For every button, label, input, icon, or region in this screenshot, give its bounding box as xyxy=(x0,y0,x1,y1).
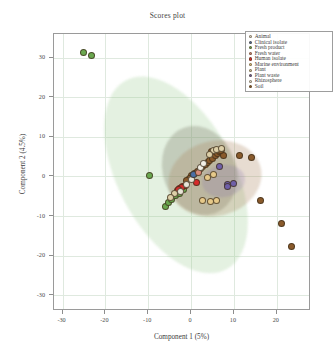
legend-marker-icon xyxy=(249,41,252,44)
data-point xyxy=(224,183,231,190)
legend[interactable]: AnimalClinical isolateFresh productFresh… xyxy=(245,31,333,92)
legend-marker-icon xyxy=(249,63,252,66)
legend-item-label: Soil xyxy=(255,84,264,89)
data-point xyxy=(288,243,295,250)
legend-marker-icon xyxy=(249,35,252,38)
x-axis-label: Component 1 (5%) xyxy=(53,333,310,341)
y-axis-tick xyxy=(49,255,53,256)
y-axis-tick xyxy=(49,96,53,97)
y-axis-tick-label: 30 xyxy=(19,53,45,60)
data-point xyxy=(236,152,243,159)
y-axis-tick-label: -20 xyxy=(19,251,45,258)
legend-marker-icon xyxy=(249,74,252,77)
y-axis-tick xyxy=(49,215,53,216)
x-axis-tick xyxy=(190,310,191,314)
y-axis-tick xyxy=(49,294,53,295)
data-point xyxy=(248,154,255,161)
x-axis-tick-label: 20 xyxy=(261,316,291,323)
data-point xyxy=(88,52,95,59)
page-title: Scores plot xyxy=(0,11,335,20)
x-axis-tick xyxy=(104,310,105,314)
data-point xyxy=(206,151,213,158)
legend-marker-icon xyxy=(249,46,252,49)
x-axis-tick xyxy=(147,310,148,314)
x-axis-tick-label: -20 xyxy=(89,316,119,323)
x-axis-tick-label: -10 xyxy=(132,316,162,323)
y-axis-tick-label: -30 xyxy=(19,291,45,298)
x-axis-tick-label: 0 xyxy=(175,316,205,323)
gridline-vertical xyxy=(63,34,64,309)
legend-marker-icon xyxy=(249,52,252,55)
data-point xyxy=(257,197,264,204)
x-axis-tick xyxy=(276,310,277,314)
y-axis-tick xyxy=(49,57,53,58)
x-axis-tick-label: -30 xyxy=(47,316,77,323)
data-point xyxy=(278,220,285,227)
legend-marker-icon xyxy=(249,69,252,72)
legend-marker-icon xyxy=(249,80,252,83)
x-axis-tick-label: 10 xyxy=(218,316,248,323)
legend-marker-icon xyxy=(249,57,252,60)
gridline-vertical xyxy=(105,34,106,309)
legend-item-soil[interactable]: Soil xyxy=(248,84,329,90)
gridline-horizontal xyxy=(54,295,309,296)
y-axis-label: Component 2 (4.5%) xyxy=(19,89,27,239)
data-point xyxy=(80,49,87,56)
y-axis-tick xyxy=(49,136,53,137)
legend-marker-icon xyxy=(249,85,252,88)
scores-plot-figure: Scores plot -30-20-10010203020100-10-20-… xyxy=(0,0,335,351)
x-axis-tick xyxy=(233,310,234,314)
y-axis-tick xyxy=(49,175,53,176)
x-axis-tick xyxy=(62,310,63,314)
